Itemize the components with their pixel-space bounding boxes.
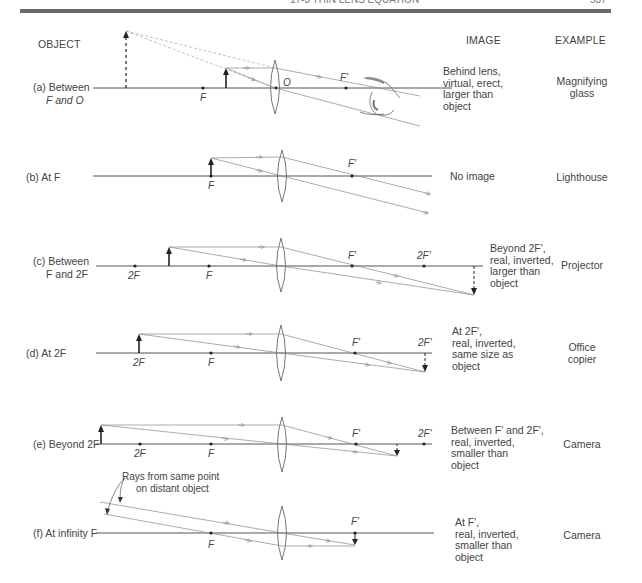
case-label-c: (c) Between F and 2F <box>33 255 89 281</box>
example-e: Camera <box>542 438 622 450</box>
svg-text:F: F <box>208 448 215 459</box>
case-label-a: (a) Between F and O <box>33 81 90 107</box>
svg-text:2F': 2F' <box>417 428 433 439</box>
image-description-f: At F',real, inverted,smaller thanobject <box>455 517 519 563</box>
example-d: Officecopier <box>542 341 622 365</box>
svg-text:Rays from same point: Rays from same point <box>122 471 219 482</box>
svg-text:F': F' <box>340 72 349 83</box>
svg-text:O: O <box>283 77 291 88</box>
image-description-a: Behind lens,virtual, erect,larger thanob… <box>443 66 503 112</box>
diagram-a: F O F' <box>93 31 452 126</box>
svg-text:F': F' <box>352 337 361 348</box>
svg-text:2F': 2F' <box>416 250 432 261</box>
diagram-c: 2F F F' 2F' <box>96 238 483 295</box>
svg-text:F': F' <box>351 516 360 527</box>
example-b: Lighthouse <box>542 171 622 183</box>
case-label-e: (e) Beyond 2F <box>33 438 100 451</box>
svg-text:F: F <box>208 539 215 550</box>
svg-text:F': F' <box>348 250 357 261</box>
svg-text:2F': 2F' <box>417 337 433 348</box>
diagram-f: F F' Rays from same point on distant obj… <box>96 471 434 560</box>
svg-text:F: F <box>200 92 207 103</box>
image-description-e: Between F' and 2F',real, inverted,smalle… <box>451 425 544 471</box>
image-description-d: At 2F',real, inverted,same size asobject <box>452 326 516 372</box>
case-label-b: (b) At F <box>26 171 60 184</box>
svg-text:on distant object: on distant object <box>136 483 209 494</box>
diagram-e: 2F F F' 2F' <box>96 417 433 472</box>
svg-text:2F: 2F <box>133 448 147 459</box>
svg-text:F': F' <box>352 428 361 439</box>
example-c: Projector <box>542 259 622 271</box>
svg-text:F: F <box>208 357 215 368</box>
svg-text:F: F <box>206 270 213 281</box>
svg-text:2F: 2F <box>127 270 141 281</box>
example-f: Camera <box>542 529 622 541</box>
case-label-d: (d) At 2F <box>26 347 66 360</box>
svg-text:F: F <box>208 180 215 191</box>
diagram-b: F F' <box>93 150 432 213</box>
diagram-d: 2F F F' 2F' <box>96 325 433 381</box>
svg-text:F': F' <box>348 158 357 169</box>
eye-icon <box>360 78 400 116</box>
case-label-f: (f) At infinity F <box>33 527 97 540</box>
example-a: Magnifyingglass <box>542 75 622 99</box>
svg-text:2F: 2F <box>132 357 146 368</box>
image-description-b: No image <box>450 171 495 183</box>
